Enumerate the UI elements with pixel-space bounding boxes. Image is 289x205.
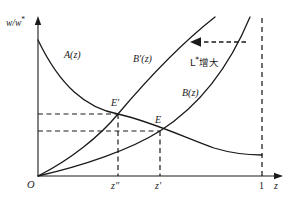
shift-arrow-head xyxy=(190,37,201,47)
shift-annotation-label: L*增大 xyxy=(190,56,219,68)
economics-diagram xyxy=(0,0,289,205)
curve-label-B: B(z) xyxy=(182,88,199,98)
x-tick-z-prime: z′ xyxy=(155,181,161,191)
curve-label-A: A(z) xyxy=(64,50,81,60)
x-tick-z-double-prime: z″ xyxy=(111,181,119,191)
guides-E xyxy=(38,131,160,176)
figure-container: w/w* A(z) B′(z) B(z) L*增大 E′ E O z″ z′ 1… xyxy=(0,0,289,205)
x-tick-one: 1 xyxy=(259,181,264,191)
guides-E-prime xyxy=(38,114,118,176)
curve-label-B-prime: B′(z) xyxy=(133,54,152,64)
y-axis-label: w/w* xyxy=(6,16,25,29)
curve-B xyxy=(38,17,250,176)
origin-label: O xyxy=(27,180,35,191)
x-axis-label: z xyxy=(274,181,278,191)
point-label-E: E xyxy=(155,115,161,125)
x-axis-arrowhead xyxy=(274,173,283,179)
y-axis-arrowhead xyxy=(35,16,41,25)
point-label-E-prime: E′ xyxy=(111,98,119,108)
shift-arrow xyxy=(190,37,246,47)
